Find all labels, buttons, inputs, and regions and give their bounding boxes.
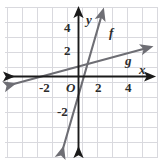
x-tick-neg2: -2 — [39, 81, 50, 94]
y-axis-label: y — [86, 13, 92, 26]
origin-label: O — [66, 81, 75, 94]
y-tick-2: 2 — [64, 44, 71, 57]
coordinate-plane-svg — [0, 0, 160, 165]
x-tick-2: 2 — [95, 81, 102, 94]
curve-label-f: f — [109, 26, 113, 39]
y-tick-neg2: -2 — [57, 105, 68, 118]
y-tick-4: 4 — [64, 21, 71, 34]
x-axis-label: x — [139, 63, 146, 76]
curve-label-g: g — [125, 54, 132, 67]
graph-figure: 4 2 -2 -2 2 4 O y x f g — [0, 0, 160, 165]
x-tick-4: 4 — [125, 81, 132, 94]
